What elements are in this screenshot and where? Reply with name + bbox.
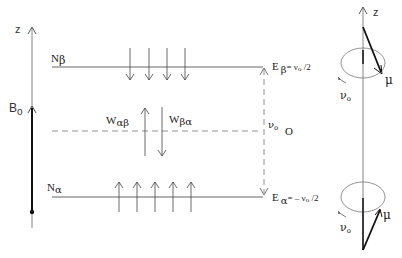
zero-label: O bbox=[285, 125, 293, 137]
b0-origin-dot bbox=[30, 210, 34, 214]
precession-z-label: z bbox=[373, 6, 379, 18]
mu-vector-bottom bbox=[363, 210, 380, 250]
spin-down-arrows bbox=[126, 48, 189, 80]
nu-label-bottom: νo bbox=[340, 221, 351, 235]
w-beta-alpha-label: Wβα bbox=[169, 113, 192, 127]
rotation-arrow-bottom-icon bbox=[338, 211, 346, 217]
b0-label: Bo bbox=[9, 101, 23, 117]
e-alpha-label: Eα= – νo /2 bbox=[272, 191, 318, 206]
mu-vector-top bbox=[363, 27, 381, 72]
nu-label-top: νo bbox=[340, 89, 351, 103]
e-beta-label: Eβ= νo /2 bbox=[272, 60, 311, 75]
upper-energy-level: Nβ Eβ= νo /2 bbox=[51, 48, 311, 80]
lower-energy-level: Nα Eα= – νo /2 bbox=[47, 181, 318, 212]
gap-nu-label: νo bbox=[268, 119, 278, 132]
mu-label-bottom: μ bbox=[383, 208, 391, 222]
b0-field-vector: Bo bbox=[9, 101, 36, 214]
precession-top: μ νo bbox=[338, 27, 393, 103]
mu-label-top: μ bbox=[385, 73, 393, 87]
transition-arrows: Wαβ Wβα bbox=[106, 107, 192, 156]
energy-gap-arrow: νo bbox=[260, 68, 278, 195]
z-axis-label: z bbox=[15, 23, 21, 35]
w-alpha-beta-label: Wαβ bbox=[106, 114, 129, 128]
zero-energy-line: O bbox=[52, 125, 293, 137]
precession-bottom: μ νo bbox=[338, 182, 391, 250]
n-alpha-label: Nα bbox=[47, 181, 62, 195]
energy-level-diagram: z Bo Nβ Eβ= νo /2 O νo bbox=[0, 0, 402, 258]
n-beta-label: Nβ bbox=[51, 52, 65, 67]
rotation-arrow-top-icon bbox=[338, 77, 346, 83]
